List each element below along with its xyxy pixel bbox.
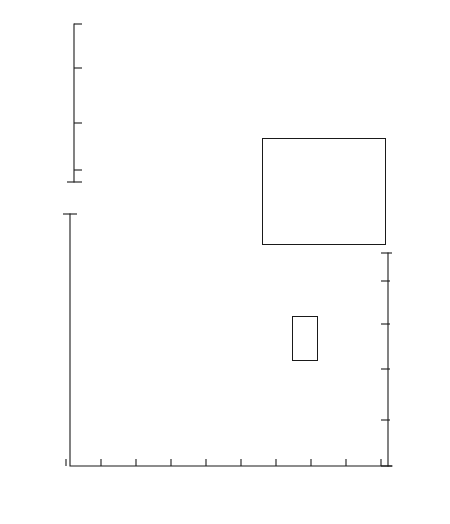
top-panel-axis [67,24,82,182]
x-axis-ticks [66,459,381,466]
plot-vector-layer [0,0,450,524]
figure-root [0,0,450,524]
bottom-panel-axis [63,214,392,466]
